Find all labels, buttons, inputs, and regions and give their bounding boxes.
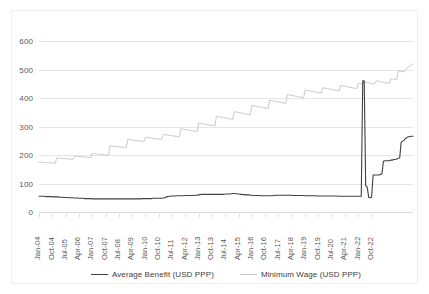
y-axis-tick-label: 600 xyxy=(19,37,33,46)
x-axis-tick-label: Jan-10 xyxy=(140,236,149,260)
x-axis-tick-mark xyxy=(278,214,279,217)
x-axis-tick-label: Apr-15 xyxy=(233,237,242,260)
x-axis-tick-mark xyxy=(79,214,80,217)
x-axis-tick-label: Jul-14 xyxy=(219,239,228,260)
x-axis-tick-mark xyxy=(212,214,213,217)
y-axis-tick-label: 100 xyxy=(19,179,33,188)
x-axis-tick-mark xyxy=(199,214,200,217)
x-axis-tick-mark xyxy=(372,214,373,217)
x-axis-tick-mark xyxy=(39,214,40,217)
x-axis-tick-label: Apr-12 xyxy=(180,237,189,260)
chart-container: 0100200300400500600 Jan-04Oct-04Jul-05Ap… xyxy=(0,0,429,294)
legend-swatch-average-benefit xyxy=(91,274,108,275)
x-axis-tick-label: Oct-19 xyxy=(313,237,322,260)
x-axis-tick-mark xyxy=(119,214,120,217)
x-axis-tick-label: Apr-21 xyxy=(339,237,348,260)
line-minimum-wage xyxy=(39,64,413,163)
axis-line-zero xyxy=(39,212,413,213)
x-axis-tick-label: Jan-19 xyxy=(299,236,308,260)
x-axis-tick-label: Jan-07 xyxy=(86,236,95,260)
x-axis-tick-label: Jul-20 xyxy=(326,239,335,260)
legend-item-average-benefit: Average Benefit (USD PPP) xyxy=(91,270,214,279)
x-axis-tick-mark xyxy=(358,214,359,217)
x-axis-tick-label: Jul-11 xyxy=(166,240,175,260)
x-axis-tick-label: Oct-13 xyxy=(206,237,215,260)
y-axis-tick-label: 500 xyxy=(19,65,33,74)
x-axis-tick-mark xyxy=(345,214,346,217)
x-axis-tick-mark xyxy=(159,214,160,217)
legend-item-minimum-wage: Minimum Wage (USD PPP) xyxy=(240,270,361,279)
x-axis-tick-mark xyxy=(52,214,53,217)
x-axis-tick-label: Jan-22 xyxy=(353,236,362,260)
x-axis-tick-mark xyxy=(292,214,293,217)
x-axis-tick-label: Oct-16 xyxy=(259,237,268,260)
x-axis-tick-label: Oct-22 xyxy=(366,237,375,260)
plot-area xyxy=(39,41,413,212)
x-axis-tick-mark xyxy=(239,214,240,217)
line-average-benefit xyxy=(39,81,413,199)
x-axis-tick-mark xyxy=(318,214,319,217)
x-axis-tick-mark xyxy=(145,214,146,217)
x-axis-tick-label: Oct-10 xyxy=(153,237,162,260)
x-axis-tick-mark xyxy=(252,214,253,217)
x-axis-tick-label: Jul-05 xyxy=(60,239,69,260)
x-axis-tick-mark xyxy=(305,214,306,217)
x-axis-tick-label: Jan-13 xyxy=(193,236,202,260)
x-axis-tick-label: Oct-07 xyxy=(100,237,109,260)
x-axis-tick-label: Apr-18 xyxy=(286,237,295,260)
y-axis-tick-label: 400 xyxy=(19,94,33,103)
x-axis-tick-label: Jul-17 xyxy=(273,239,282,260)
y-axis-tick-label: 0 xyxy=(28,208,33,217)
x-axis-tick-labels: Jan-04Oct-04Jul-05Apr-06Jan-07Oct-07Jul-… xyxy=(39,214,413,260)
x-axis-tick-label: Apr-09 xyxy=(126,237,135,260)
x-axis-tick-label: Jan-16 xyxy=(246,236,255,260)
x-axis-tick-label: Jul-08 xyxy=(113,239,122,260)
x-axis-tick-mark xyxy=(66,214,67,217)
x-axis-tick-label: Apr-06 xyxy=(73,237,82,260)
x-axis-tick-label: Oct-04 xyxy=(47,237,56,260)
x-axis-tick-mark xyxy=(132,214,133,217)
x-axis-tick-label: Jan-04 xyxy=(33,236,42,260)
x-axis-tick-mark xyxy=(172,214,173,217)
x-axis-tick-mark xyxy=(225,214,226,217)
x-axis-tick-mark xyxy=(106,214,107,217)
series-lines xyxy=(39,41,413,212)
y-axis-tick-label: 200 xyxy=(19,151,33,160)
y-axis-tick-labels: 0100200300400500600 xyxy=(0,41,33,212)
x-axis-tick-mark xyxy=(332,214,333,217)
y-axis-tick-label: 300 xyxy=(19,122,33,131)
legend-label-minimum-wage: Minimum Wage (USD PPP) xyxy=(261,270,361,279)
chart-legend: Average Benefit (USD PPP) Minimum Wage (… xyxy=(39,266,413,282)
legend-label-average-benefit: Average Benefit (USD PPP) xyxy=(112,270,214,279)
legend-swatch-minimum-wage xyxy=(240,274,257,275)
x-axis-tick-mark xyxy=(185,214,186,217)
x-axis-tick-mark xyxy=(92,214,93,217)
x-axis-tick-mark xyxy=(265,214,266,217)
